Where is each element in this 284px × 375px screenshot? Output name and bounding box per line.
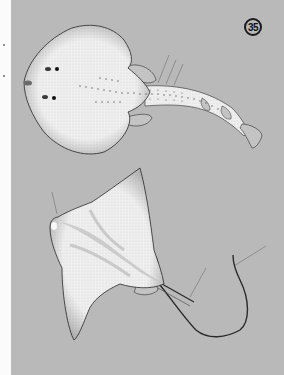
tail: [145, 86, 248, 136]
upper-ray-illustration: [24, 25, 262, 154]
eye-right: [42, 95, 48, 99]
eye-left: [45, 67, 51, 71]
spiracle-left: [55, 67, 59, 71]
spiracle-right: [52, 96, 56, 100]
whip-tail: [160, 255, 248, 337]
leader-lines-upper: [158, 55, 183, 85]
illustration-plate: 35: [11, 0, 284, 375]
margin-mark: [3, 44, 5, 46]
ray-illustrations: [11, 0, 284, 375]
lower-eagle-ray-illustration: [50, 168, 266, 340]
snout-mark: [24, 81, 32, 86]
page-margin: [0, 0, 11, 375]
caudal-fin: [240, 124, 262, 148]
head-highlight: [51, 222, 57, 230]
margin-mark: [3, 75, 5, 77]
